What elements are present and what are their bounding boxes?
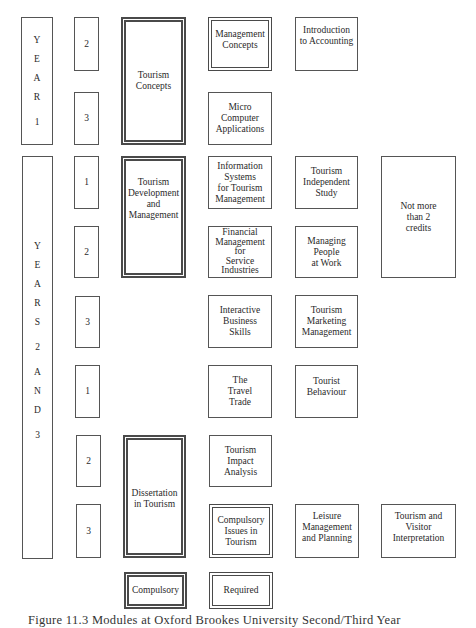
module-label: Micro Computer Applications [216, 102, 265, 135]
term-box: 2 [74, 226, 99, 278]
module-label: Tourism and Visitor Interpretation [393, 511, 445, 544]
term-box: 3 [76, 504, 101, 558]
term-number: 2 [84, 39, 89, 50]
module-tourism-development: Tourism Development and Management [121, 156, 186, 278]
module-impact-analysis: Tourism Impact Analysis [209, 435, 272, 487]
note-label: Not more than 2 credits [400, 201, 436, 234]
vertical-label-letter: 3 [35, 426, 40, 445]
module-label: Managing People at Work [307, 236, 346, 269]
note-max-credits: Not more than 2 credits [381, 156, 456, 278]
module-label: Tourism Impact Analysis [224, 445, 257, 478]
module-label: Leisure Management and Planning [302, 511, 352, 544]
legend-compulsory: Compulsory [124, 572, 187, 609]
module-interactive-business: Interactive Business Skills [208, 295, 272, 348]
module-label: The Travel Trade [228, 375, 252, 408]
module-label: Tourism Marketing Management [302, 305, 352, 338]
term-number: 3 [84, 113, 89, 124]
vertical-label-letter: A [34, 69, 41, 88]
vertical-label-letter: A [34, 363, 41, 382]
module-label: Tourist Behaviour [307, 376, 347, 398]
year-1-label-box: YEAR 1 [21, 17, 53, 145]
module-label: Management Concepts [215, 29, 265, 51]
module-tourism-concepts: Tourism Concepts [121, 17, 186, 145]
term-box: 2 [74, 17, 99, 71]
module-managing-people: Managing People at Work [295, 226, 358, 278]
term-number: 1 [85, 386, 90, 397]
module-visitor-interpretation: Tourism and Visitor Interpretation [381, 504, 456, 558]
legend-required: Required [209, 572, 273, 609]
module-compulsory-issues: Compulsory Issues in Tourism [209, 504, 273, 558]
module-financial-management: Financial Management for Service Industr… [208, 226, 272, 278]
module-leisure-management: Leisure Management and Planning [295, 504, 359, 558]
figure-caption: Figure 11.3 Modules at Oxford Brookes Un… [28, 613, 401, 628]
module-tourism-marketing: Tourism Marketing Management [295, 295, 358, 348]
module-label: Financial Management for Service Industr… [215, 228, 265, 276]
vertical-label-letter: R [34, 88, 40, 107]
term-box: 3 [74, 92, 99, 145]
term-box: 1 [74, 156, 99, 209]
term-number: 1 [84, 177, 89, 188]
vertical-label-letter: E [35, 256, 41, 275]
module-micro-computer: Micro Computer Applications [208, 92, 272, 145]
vertical-label-letter: E [34, 50, 40, 69]
legend-label: Required [224, 585, 259, 596]
module-label: Dissertation in Tourism [132, 488, 178, 510]
term-box: 3 [75, 296, 100, 348]
module-management-concepts: Management Concepts [208, 17, 272, 71]
vertical-label-letter: A [34, 275, 41, 294]
legend-label: Compulsory [132, 585, 179, 596]
module-label: Introduction to Accounting [300, 25, 354, 47]
vertical-label-letter: Y [34, 237, 41, 256]
module-label: Interactive Business Skills [220, 305, 261, 338]
term-number: 2 [84, 247, 89, 258]
module-label: Tourism Concepts [136, 70, 171, 92]
module-independent-study: Tourism Independent Study [295, 156, 358, 209]
years-2-and-3-label-box: YEARS 2 AND 3 [22, 156, 53, 559]
vertical-label-letter: R [34, 294, 40, 313]
vertical-label-letter: 1 [35, 113, 40, 132]
vertical-label-letter: Y [34, 31, 41, 50]
module-label: Tourism Independent Study [303, 166, 350, 199]
module-label: Information Systems for Tourism Manageme… [215, 161, 265, 205]
module-label: Compulsory Issues in Tourism [218, 515, 265, 548]
module-dissertation: Dissertation in Tourism [123, 435, 186, 558]
term-box: 1 [75, 365, 100, 418]
term-number: 3 [85, 317, 90, 328]
module-travel-trade: The Travel Trade [208, 365, 272, 418]
module-tourist-behaviour: Tourist Behaviour [295, 365, 358, 418]
module-intro-accounting: Introduction to Accounting [295, 17, 358, 71]
term-number: 2 [86, 456, 91, 467]
module-label: Tourism Development and Management [128, 177, 179, 221]
module-info-systems: Information Systems for Tourism Manageme… [208, 156, 272, 209]
vertical-label-letter: N [34, 382, 41, 401]
term-number: 3 [86, 526, 91, 537]
term-box: 2 [76, 435, 101, 487]
